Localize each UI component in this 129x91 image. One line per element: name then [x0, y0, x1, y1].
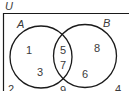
element-outside: 4 [115, 83, 121, 91]
element-a-only: 1 [26, 44, 32, 56]
element-outside: 2 [8, 83, 14, 91]
set-a-label: A [16, 18, 24, 30]
element-b-only: 8 [94, 42, 100, 54]
universe-label: U [5, 0, 13, 12]
element-intersection: 7 [60, 59, 66, 71]
set-b-label: B [103, 17, 110, 29]
element-intersection: 5 [60, 44, 66, 56]
element-b-only: 6 [82, 68, 88, 80]
element-outside: 9 [60, 84, 66, 91]
element-a-only: 3 [37, 66, 43, 78]
venn-diagram: U A B 1 3 5 7 8 6 2 9 4 [0, 0, 129, 91]
